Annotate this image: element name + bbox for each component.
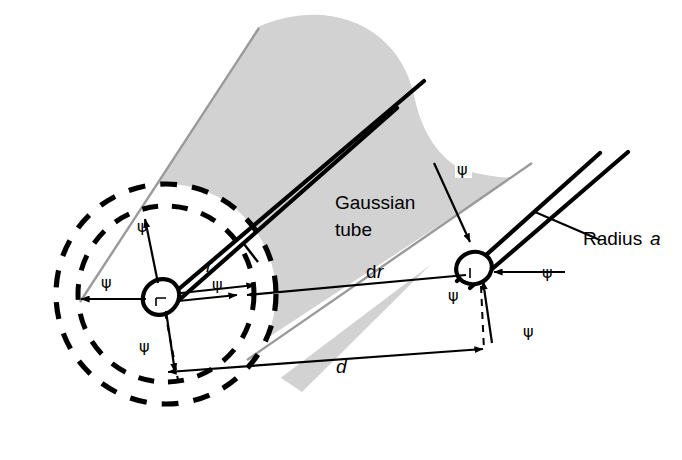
flux-arrow-into-tube-bottom (483, 281, 492, 343)
radius-label-symbol: a (650, 228, 661, 249)
dr-label-r: r (377, 261, 384, 282)
flux-symbol: ψ (212, 275, 223, 294)
gaussian-tube-label-line2: tube (335, 219, 372, 240)
d-right-dashed-tick (481, 286, 484, 350)
flux-symbol: ψ (448, 286, 459, 305)
radius-label-text: Radius (583, 228, 642, 249)
flux-symbol: ψ (101, 273, 112, 292)
diagram-canvas: Gaussian tube d r Radius a d r ψ ψ ψ ψ ψ… (0, 0, 682, 460)
distance-d-label: d (336, 356, 348, 377)
radial-r-label: r (206, 255, 213, 276)
flux-symbol: ψ (523, 322, 534, 341)
physics-diagram-figure: Gaussian tube d r Radius a d r ψ ψ ψ ψ ψ… (0, 0, 682, 460)
flux-symbol: ψ (542, 263, 553, 282)
gaussian-tube-label-line1: Gaussian (335, 192, 415, 213)
flux-symbol: ψ (139, 337, 150, 356)
flux-symbol: ψ (457, 160, 468, 179)
flux-symbol: ψ (137, 217, 148, 236)
dr-label-d: d (366, 261, 377, 282)
